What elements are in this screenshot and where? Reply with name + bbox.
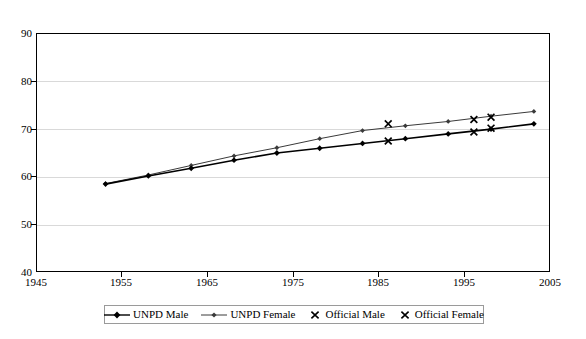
x-axis-tick-label: 2005 (520, 277, 580, 288)
legend-item-official-female[interactable]: Official Female (398, 309, 484, 320)
legend-label: Official Male (325, 309, 384, 320)
legend-marker-x-icon (308, 310, 322, 320)
series-layer (37, 34, 551, 273)
data-point-diamond (531, 109, 536, 114)
legend-item-unpd-female[interactable]: UNPD Female (201, 309, 295, 320)
y-axis-tick-label: 50 (4, 219, 32, 230)
legend-marker-line-diamond-icon (104, 310, 130, 320)
data-point-diamond (231, 157, 237, 163)
data-point-x (471, 116, 478, 123)
legend-label: Official Female (415, 309, 484, 320)
y-axis-tick-label: 60 (4, 171, 32, 182)
series-line (106, 124, 534, 184)
data-point-diamond (103, 181, 109, 187)
x-axis-tick-label: 1985 (348, 277, 408, 288)
data-point-diamond (317, 145, 323, 151)
data-point-diamond (274, 145, 279, 150)
chart-legend: UNPD Male UNPD Female Official Male Offi… (104, 305, 484, 324)
series-official-female (385, 114, 495, 127)
y-axis-tick-label: 80 (4, 76, 32, 87)
x-axis-tick-label: 1995 (434, 277, 494, 288)
data-point-diamond (317, 136, 322, 141)
line-chart: Life expectancy at birth 90 80 70 60 50 … (0, 0, 586, 339)
data-point-x (385, 120, 392, 127)
data-point-diamond (403, 123, 408, 128)
legend-item-unpd-male[interactable]: UNPD Male (104, 309, 188, 320)
data-point-diamond (531, 121, 537, 127)
legend-label: UNPD Male (133, 309, 188, 320)
data-point-diamond (360, 141, 366, 147)
legend-marker-line-diamond-icon (201, 310, 227, 320)
x-axis-tick-label: 1945 (6, 277, 66, 288)
y-axis-tick-label: 90 (4, 28, 32, 39)
legend-label: UNPD Female (230, 309, 295, 320)
plot-area (36, 33, 550, 272)
x-axis-tick-label: 1975 (263, 277, 323, 288)
data-point-diamond (446, 119, 451, 124)
x-axis-tick-label: 1955 (91, 277, 151, 288)
x-axis-tick-label: 1965 (177, 277, 237, 288)
data-point-diamond (360, 128, 365, 133)
data-point-diamond (145, 173, 151, 179)
data-point-diamond (274, 150, 280, 156)
data-point-diamond (402, 136, 408, 142)
legend-marker-x-icon (398, 310, 412, 320)
data-point-diamond (445, 131, 451, 137)
y-axis-tick-label: 70 (4, 124, 32, 135)
legend-item-official-male[interactable]: Official Male (308, 309, 384, 320)
